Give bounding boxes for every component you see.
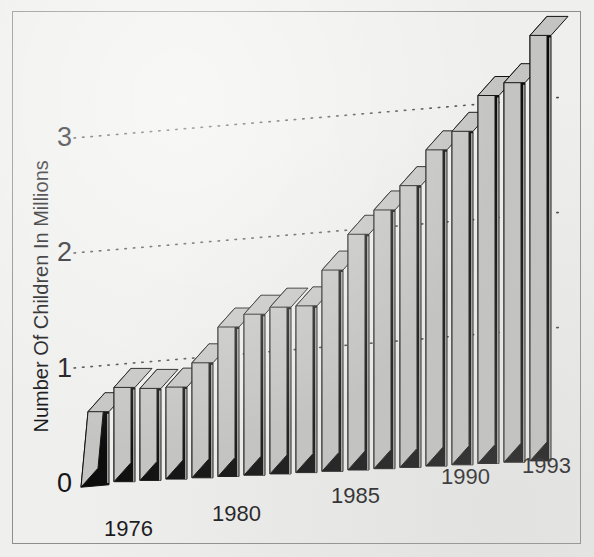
bar-side-face <box>322 251 339 471</box>
bar-side-face <box>478 77 495 464</box>
bar-side-face <box>218 308 235 477</box>
bar-chart-3d <box>0 0 594 557</box>
bar-side-face <box>244 295 261 475</box>
bar-side-face <box>192 344 209 478</box>
bars-group <box>81 16 568 487</box>
bar-side-face <box>348 215 365 470</box>
bar-side-face <box>452 112 469 465</box>
x-tick-1990: 1990 <box>441 466 490 488</box>
y-tick-3: 3 <box>38 124 72 151</box>
x-tick-1980: 1980 <box>212 503 261 525</box>
x-tick-1993: 1993 <box>522 455 571 477</box>
bar-side-face <box>400 167 417 468</box>
x-tick-1976: 1976 <box>104 518 153 540</box>
bar-side-face <box>374 191 391 469</box>
bar-side-face <box>270 288 287 474</box>
chart-figure: 3 2 1 0 1976 1980 1985 1990 1993 Number … <box>0 0 594 557</box>
y-tick-0: 0 <box>38 470 72 497</box>
bar-top-face <box>530 16 568 35</box>
x-tick-1985: 1985 <box>331 485 380 507</box>
bar-side-face <box>296 287 313 473</box>
bar-side-face <box>530 16 547 461</box>
bar-1993 <box>530 16 568 461</box>
bar-side-face <box>504 64 521 463</box>
bar-side-face <box>426 131 443 466</box>
y-axis-title: Number Of Children In Millions <box>30 183 53 433</box>
